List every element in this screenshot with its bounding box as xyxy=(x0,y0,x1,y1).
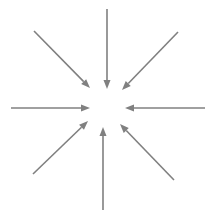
diagram-canvas xyxy=(0,0,215,218)
converging-arrows-diagram xyxy=(0,0,215,218)
